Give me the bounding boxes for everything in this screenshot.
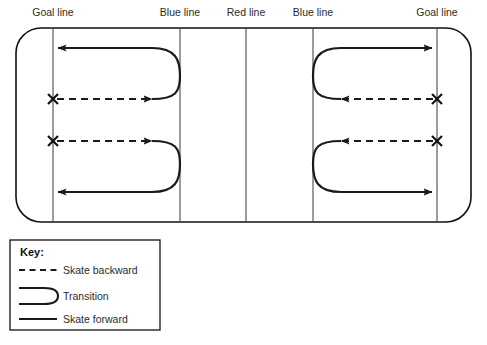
hockey-drill-diagram: Goal line Blue line Red line Blue line G… xyxy=(0,0,487,345)
diagram-canvas: Goal line Blue line Red line Blue line G… xyxy=(0,0,487,345)
legend-label-transition: Transition xyxy=(63,290,109,302)
label-goal-line-right: Goal line xyxy=(416,6,458,18)
label-blue-line-right: Blue line xyxy=(293,6,333,18)
zone-line-labels-group: Goal line Blue line Red line Blue line G… xyxy=(32,6,458,18)
label-blue-line-left: Blue line xyxy=(160,6,200,18)
legend-title: Key: xyxy=(20,246,44,258)
legend-key-box: Key: Skate backward Transition Skate for… xyxy=(10,240,160,330)
legend-label-skate-forward: Skate forward xyxy=(63,313,128,325)
legend-label-skate-backward: Skate backward xyxy=(63,264,138,276)
label-red-line-center: Red line xyxy=(227,6,266,18)
label-goal-line-left: Goal line xyxy=(32,6,74,18)
